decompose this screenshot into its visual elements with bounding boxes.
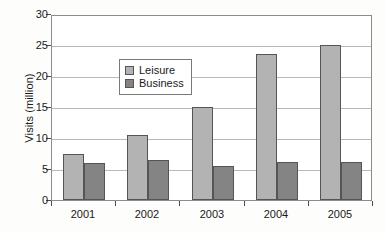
y-tick-label: 25	[18, 40, 48, 51]
x-tick-label: 2001	[51, 208, 115, 220]
bar-business-2003	[213, 166, 234, 200]
x-tick-mark	[179, 201, 180, 206]
legend-item-business: Business	[125, 77, 184, 89]
legend-swatch-icon	[125, 66, 134, 75]
y-tick-label: 5	[18, 164, 48, 175]
legend-item-leisure: Leisure	[125, 64, 184, 76]
x-tick-label: 2004	[244, 208, 308, 220]
bar-leisure-2003	[192, 107, 213, 200]
legend-label: Leisure	[139, 64, 175, 76]
bar-leisure-2005	[320, 45, 341, 200]
x-tick-mark	[244, 201, 245, 206]
y-tick-label: 10	[18, 133, 48, 144]
chart-legend: Leisure Business	[119, 59, 192, 95]
x-tick-mark	[308, 201, 309, 206]
x-tick-mark	[51, 201, 52, 206]
x-tick-label: 2003	[180, 208, 244, 220]
plot-area: Leisure Business	[51, 15, 372, 201]
bar-leisure-2004	[256, 54, 277, 200]
x-tick-label: 2005	[308, 208, 372, 220]
bar-leisure-2001	[63, 154, 84, 200]
legend-label: Business	[139, 77, 184, 89]
y-tick-label: 30	[18, 9, 48, 20]
bar-business-2005	[341, 162, 362, 200]
x-tick-mark	[372, 201, 373, 206]
legend-swatch-icon	[125, 79, 134, 88]
bar-business-2002	[148, 160, 169, 200]
bar-chart-figure: Visits (million) 051015202530 2001200220…	[0, 0, 385, 232]
bar-business-2004	[277, 162, 298, 200]
y-tick-label: 20	[18, 71, 48, 82]
bar-leisure-2002	[127, 135, 148, 200]
y-tick-label: 0	[18, 195, 48, 206]
y-tick-label: 15	[18, 102, 48, 113]
bar-business-2001	[84, 163, 105, 200]
x-tick-mark	[115, 201, 116, 206]
x-tick-label: 2002	[115, 208, 179, 220]
